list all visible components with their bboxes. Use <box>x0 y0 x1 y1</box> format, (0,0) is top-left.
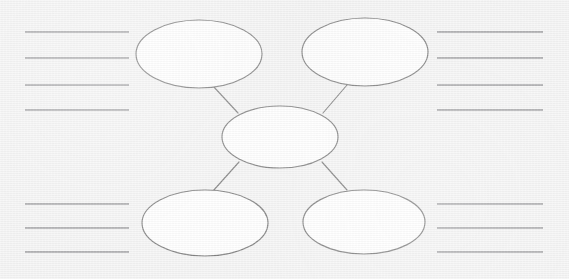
node-ellipse-top-right[interactable] <box>302 18 428 86</box>
connector-center-to-top-right <box>323 85 347 113</box>
connector-center-to-bottom-left <box>213 162 239 191</box>
node-bottom-left[interactable] <box>142 190 268 256</box>
node-ellipse-bottom-right[interactable] <box>303 190 425 254</box>
concept-map-worksheet <box>0 0 569 279</box>
node-top-left[interactable] <box>136 20 262 88</box>
node-top-right[interactable] <box>302 18 428 86</box>
rule-group-bottom-right[interactable] <box>437 204 543 252</box>
rule-group-top-right[interactable] <box>437 32 543 110</box>
connector-center-to-bottom-right <box>322 162 347 190</box>
node-bottom-right[interactable] <box>303 190 425 254</box>
node-ellipse-center[interactable] <box>222 106 338 168</box>
node-layer <box>136 18 428 256</box>
rule-group-bottom-left[interactable] <box>25 204 129 252</box>
node-ellipse-top-left[interactable] <box>136 20 262 88</box>
node-ellipse-bottom-left[interactable] <box>142 190 268 256</box>
concept-map-canvas <box>0 0 569 279</box>
node-center[interactable] <box>222 106 338 168</box>
connector-center-to-top-left <box>213 86 238 113</box>
rule-group-top-left[interactable] <box>25 32 129 110</box>
